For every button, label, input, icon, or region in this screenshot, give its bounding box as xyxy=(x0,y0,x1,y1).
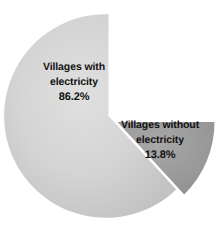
slice-value-label: 86.2% xyxy=(22,90,126,106)
pie-chart: Villages with electricity 86.2% Villages… xyxy=(0,0,215,229)
pie-chart-canvas xyxy=(0,0,215,229)
slice-label-villages-without-electricity: Villages without electricity 13.8% xyxy=(110,118,210,163)
slice-label-villages-with-electricity: Villages with electricity 86.2% xyxy=(22,60,126,105)
slice-value-label: 13.8% xyxy=(110,148,210,164)
slice-label-line2: electricity xyxy=(22,75,126,90)
slice-label-line2: electricity xyxy=(110,133,210,148)
slice-label-line1: Villages without xyxy=(110,118,210,133)
pie-slice-villages-with-electricity xyxy=(4,14,176,218)
slice-label-line1: Villages with xyxy=(22,60,126,75)
